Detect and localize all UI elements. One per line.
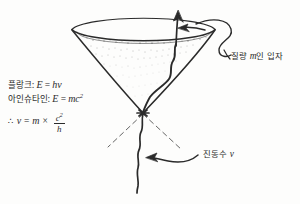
- mass-label-prefix: 질량: [231, 51, 250, 61]
- equation-block: 플랑크: E = hν 아인슈타인: E = mc2 ∴ ν = m × c2 …: [8, 80, 128, 135]
- cone-rim-ellipse: [72, 18, 215, 43]
- diagram-canvas: 플랑크: E = hν 아인슈타인: E = mc2 ∴ ν = m × c2 …: [0, 0, 300, 204]
- einstein-rhs: mc: [68, 94, 79, 105]
- conclusion-lhs: ν: [17, 116, 21, 127]
- planck-equals: =: [43, 80, 53, 90]
- cone-right-edge: [143, 30, 215, 113]
- mass-label-suffix: 인 입자: [256, 51, 283, 61]
- numerator-exponent: 2: [60, 111, 63, 118]
- label-frequency: 진동수 ν: [203, 150, 234, 160]
- label-mass-particle: 질량 m인 입자: [231, 52, 283, 62]
- oscillating-wave-line: [137, 44, 176, 193]
- conclusion-equals: =: [24, 117, 29, 127]
- curved-leader-to-frequency-label: [146, 153, 198, 162]
- mass-label-leader-tick: [224, 50, 230, 59]
- fraction-numerator: c2: [54, 112, 65, 124]
- therefore-symbol: ∴: [8, 117, 14, 126]
- freq-label-variable: ν: [230, 149, 234, 159]
- conclusion-mass: m: [32, 116, 39, 127]
- einstein-exponent: 2: [80, 92, 83, 99]
- equation-einstein: 아인슈타인: E = mc2: [8, 93, 128, 105]
- rotation-arrow: [178, 24, 205, 32]
- fraction-denominator: h: [55, 124, 63, 134]
- conclusion-times: ×: [42, 117, 47, 127]
- conclusion-fraction: c2 h: [54, 112, 65, 134]
- planck-rhs: hν: [52, 79, 61, 90]
- einstein-name: 아인슈타인: [8, 95, 48, 105]
- equation-conclusion: ∴ ν = m × c2 h: [8, 111, 128, 133]
- equation-planck: 플랑크: E = hν: [8, 80, 128, 91]
- einstein-equals: =: [58, 95, 68, 105]
- planck-name: 플랑크: [8, 80, 32, 90]
- freq-label-prefix: 진동수: [203, 149, 230, 159]
